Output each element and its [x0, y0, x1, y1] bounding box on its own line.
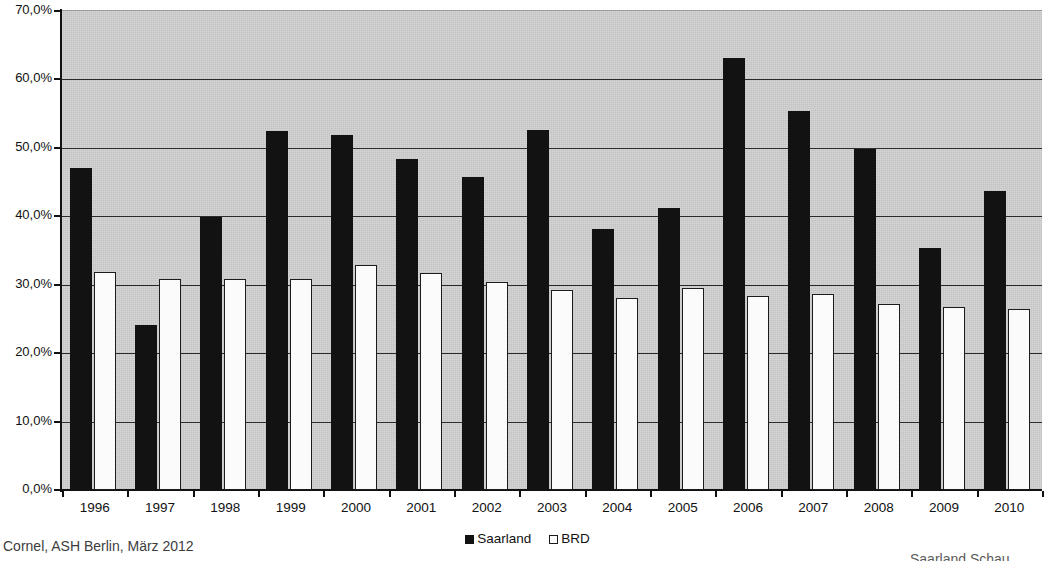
x-axis-tick [454, 491, 456, 497]
bar-brd-2005 [682, 288, 704, 490]
bar-saarland-2002 [462, 177, 484, 490]
x-axis-label-2004: 2004 [602, 500, 632, 515]
y-axis-tick [54, 352, 61, 354]
x-axis-label-2002: 2002 [472, 500, 502, 515]
bar-brd-2006 [747, 296, 769, 490]
bar-brd-2000 [355, 265, 377, 490]
x-axis-label-2003: 2003 [537, 500, 567, 515]
plot-top-border [62, 10, 1042, 11]
x-axis-tick [585, 491, 587, 497]
bar-saarland-2008 [854, 149, 876, 490]
y-axis-tick [54, 489, 61, 491]
y-axis-label: 40,0% [0, 207, 52, 222]
bar-saarland-2003 [527, 130, 549, 490]
bar-brd-2008 [878, 304, 900, 490]
x-axis-label-2001: 2001 [406, 500, 436, 515]
bar-saarland-1996 [70, 168, 92, 490]
y-axis-tick [54, 284, 61, 286]
bar-brd-2001 [420, 273, 442, 490]
x-axis-tick [323, 491, 325, 497]
y-axis-tick [54, 78, 61, 80]
bar-chart: 0,0%10,0%20,0%30,0%40,0%50,0%60,0%70,0% … [0, 0, 1055, 561]
x-axis-tick [911, 491, 913, 497]
legend-label: BRD [561, 531, 590, 546]
bar-saarland-1998 [200, 217, 222, 490]
bar-saarland-2004 [592, 229, 614, 490]
x-axis-label-2005: 2005 [668, 500, 698, 515]
bar-saarland-2007 [788, 111, 810, 490]
bar-saarland-1999 [266, 131, 288, 490]
bar-saarland-2000 [331, 135, 353, 490]
legend-entry-saarland: Saarland [465, 531, 531, 546]
bar-saarland-2009 [919, 248, 941, 490]
x-axis-label-1999: 1999 [276, 500, 306, 515]
x-axis-tick [650, 491, 652, 497]
bar-brd-2007 [812, 294, 834, 490]
bar-brd-1997 [159, 279, 181, 490]
x-axis-label-1998: 1998 [210, 500, 240, 515]
bar-saarland-2006 [723, 58, 745, 490]
x-axis-tick [127, 491, 129, 497]
x-axis-label-1997: 1997 [145, 500, 175, 515]
gridline [62, 79, 1042, 80]
x-axis-tick [715, 491, 717, 497]
x-axis-label-2009: 2009 [929, 500, 959, 515]
x-axis-tick [781, 491, 783, 497]
x-axis-label-2007: 2007 [798, 500, 828, 515]
bar-brd-1998 [224, 279, 246, 490]
bar-saarland-2001 [396, 159, 418, 490]
bar-brd-2003 [551, 290, 573, 490]
plot-area [62, 11, 1042, 490]
x-axis-label-2006: 2006 [733, 500, 763, 515]
x-axis-label-2000: 2000 [341, 500, 371, 515]
bar-saarland-2005 [658, 208, 680, 490]
x-axis-tick [62, 491, 64, 497]
bar-saarland-1997 [135, 325, 157, 490]
y-axis-label: 30,0% [0, 276, 52, 291]
footer-right-note: Saarland Schau [910, 551, 1010, 561]
bar-brd-2004 [616, 298, 638, 490]
x-axis-label-1996: 1996 [80, 500, 110, 515]
bar-brd-1996 [94, 272, 116, 490]
x-axis-tick [389, 491, 391, 497]
y-axis-line [60, 9, 62, 492]
filled-square-icon [465, 535, 474, 544]
outlined-square-icon [549, 535, 558, 544]
bar-brd-1999 [290, 279, 312, 490]
x-axis-tick [519, 491, 521, 497]
y-axis-label: 10,0% [0, 413, 52, 428]
bar-brd-2002 [486, 282, 508, 490]
x-axis-tick [1042, 491, 1044, 497]
x-axis-label-2008: 2008 [864, 500, 894, 515]
bar-saarland-2010 [984, 191, 1006, 490]
y-axis-label: 60,0% [0, 70, 52, 85]
legend-label: Saarland [477, 531, 531, 546]
y-axis-label: 50,0% [0, 139, 52, 154]
bar-brd-2010 [1008, 309, 1030, 490]
x-axis-tick [258, 491, 260, 497]
x-axis-tick [846, 491, 848, 497]
y-axis-tick [54, 421, 61, 423]
legend-entry-brd: BRD [549, 531, 590, 546]
y-axis-tick [54, 10, 61, 12]
gridline [62, 148, 1042, 149]
y-axis-label: 0,0% [0, 481, 52, 496]
y-axis-tick [54, 215, 61, 217]
y-axis-label: 20,0% [0, 344, 52, 359]
x-axis-label-2010: 2010 [994, 500, 1024, 515]
footer-source-note: Cornel, ASH Berlin, März 2012 [3, 538, 194, 554]
x-axis-tick [977, 491, 979, 497]
x-axis-tick [193, 491, 195, 497]
y-axis-label: 70,0% [0, 2, 52, 17]
y-axis-tick [54, 147, 61, 149]
bar-brd-2009 [943, 307, 965, 490]
